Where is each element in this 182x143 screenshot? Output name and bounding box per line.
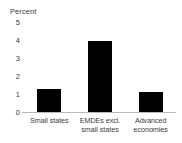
y-tick-label: 2	[16, 73, 20, 81]
x-category-label: Advancedeconomies	[125, 116, 176, 134]
x-category-label-line: Advanced	[125, 116, 176, 125]
bar	[139, 92, 163, 112]
plot-area: 543210	[24, 23, 176, 113]
bar-slot	[24, 23, 75, 112]
bar-series	[24, 23, 176, 112]
bar-slot	[75, 23, 126, 112]
bar-slot	[125, 23, 176, 112]
y-tick-label: 0	[16, 109, 20, 117]
x-category-label-line: Small states	[24, 116, 75, 125]
bar	[88, 41, 112, 112]
y-axis-title: Percent	[10, 7, 37, 16]
y-tick-label: 5	[16, 19, 20, 27]
bar-chart: Percent 543210 Small statesEMDEs excl.sm…	[0, 0, 182, 143]
x-category-label-line: economies	[125, 125, 176, 134]
x-axis-baseline	[22, 112, 176, 113]
x-category-label-line: small states	[75, 125, 126, 134]
y-tick-label: 4	[16, 37, 20, 45]
x-axis-category-labels: Small statesEMDEs excl.small statesAdvan…	[24, 116, 176, 134]
y-tick-label: 1	[16, 91, 20, 99]
x-category-label-line: EMDEs excl.	[75, 116, 126, 125]
x-category-label: EMDEs excl.small states	[75, 116, 126, 134]
bar	[37, 89, 61, 112]
y-tick-label: 3	[16, 55, 20, 63]
x-category-label: Small states	[24, 116, 75, 134]
